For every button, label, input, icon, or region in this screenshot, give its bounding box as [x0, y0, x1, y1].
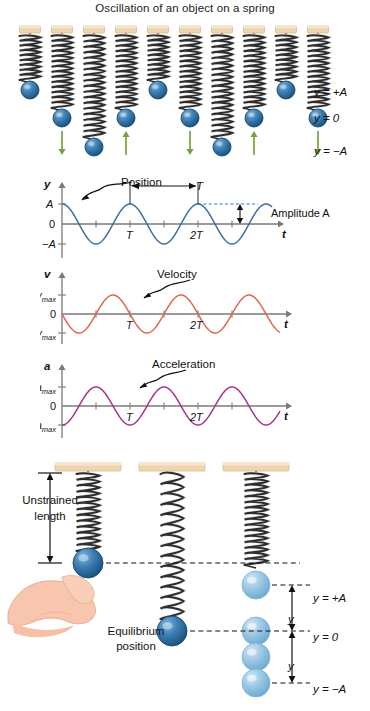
svg-text:0: 0 [49, 218, 55, 230]
top-label-zero: y = 0 [314, 112, 339, 124]
svg-text:t: t [284, 318, 289, 330]
period-annotation-label: T [196, 180, 203, 192]
svg-text:y: y [43, 178, 51, 190]
unstrained-length-label-line2: length [6, 510, 94, 522]
top-label-minus-A: y = −A [314, 145, 347, 157]
svg-text:v: v [44, 268, 51, 280]
svg-text:T: T [126, 411, 134, 423]
bottom-label-minus-A: y = −A [313, 683, 346, 695]
equilibrium-position-label-line1: Equilibrium [88, 625, 184, 637]
displacement-label-lower: y [288, 660, 294, 672]
svg-text:T: T [126, 319, 134, 331]
svg-text:T: T [126, 229, 134, 241]
svg-text:vmax: vmax [40, 289, 56, 304]
svg-text:amax: amax [40, 381, 56, 396]
svg-text:−amax: −amax [40, 419, 56, 434]
velocity-chart: vtvmax0−vmaxT2T [40, 268, 370, 350]
svg-text:−vmax: −vmax [40, 327, 56, 342]
equilibrium-position-label-line2: position [88, 640, 184, 652]
position-chart: ytA0−AT2T [40, 176, 370, 266]
bottom-label-plus-A: y = +A [313, 592, 346, 604]
equilibrium-panel [0, 445, 370, 711]
figure-title: Oscillation of an object on a spring [0, 2, 370, 14]
velocity-callout-label: Velocity [157, 268, 197, 280]
svg-text:0: 0 [50, 400, 56, 412]
svg-text:t: t [282, 228, 287, 240]
top-label-plus-A: y = +A [314, 86, 347, 98]
acceleration-callout-label: Acceleration [152, 358, 215, 370]
spring-sequence-panel [0, 16, 370, 191]
svg-text:0: 0 [50, 308, 56, 320]
svg-text:2T: 2T [189, 229, 204, 241]
amplitude-annotation-label: Amplitude A [271, 207, 330, 219]
displacement-label-upper: y [288, 613, 294, 625]
figure-root: Oscillation of an object on a spring y =… [0, 0, 370, 711]
position-callout-label: Position [121, 176, 162, 188]
svg-text:2T: 2T [189, 319, 204, 331]
bottom-label-zero: y = 0 [313, 631, 338, 643]
svg-text:t: t [284, 410, 289, 422]
svg-text:A: A [45, 198, 53, 210]
unstrained-length-label-line1: Unstrained [6, 494, 94, 506]
svg-text:a: a [44, 360, 51, 372]
svg-text:−A: −A [42, 238, 56, 250]
svg-text:2T: 2T [189, 411, 204, 423]
